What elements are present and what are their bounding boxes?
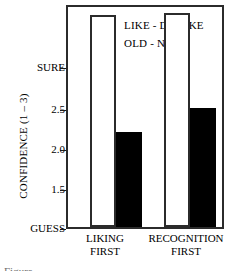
bar-recognition-first-like-dislike [164,13,190,227]
figure-container: CONFIDENCE (1 – 3) SURE 2.5 2.0 1.5 GUES… [0,0,236,271]
x-label-line-1: RECOGNITION [140,232,232,245]
y-axis-title: CONFIDENCE (1 – 3) [17,66,29,226]
x-axis-group-label-recognition-first: RECOGNITION FIRST [140,232,232,258]
bar-recognition-first-old-new [190,108,216,227]
y-tick-mark-guess [60,229,66,230]
x-axis-group-label-liking-first: LIKING FIRST [62,232,148,258]
bar-liking-first-like-dislike [90,15,116,227]
figure-caption-clipped: Figure [4,266,232,271]
bar-liking-first-old-new [116,132,142,228]
x-label-line-1: LIKING [62,232,148,245]
x-label-line-2: FIRST [140,245,232,258]
plot-area: LIKE - DISLIKE OLD - NEW [66,5,224,229]
x-label-line-2: FIRST [62,245,148,258]
